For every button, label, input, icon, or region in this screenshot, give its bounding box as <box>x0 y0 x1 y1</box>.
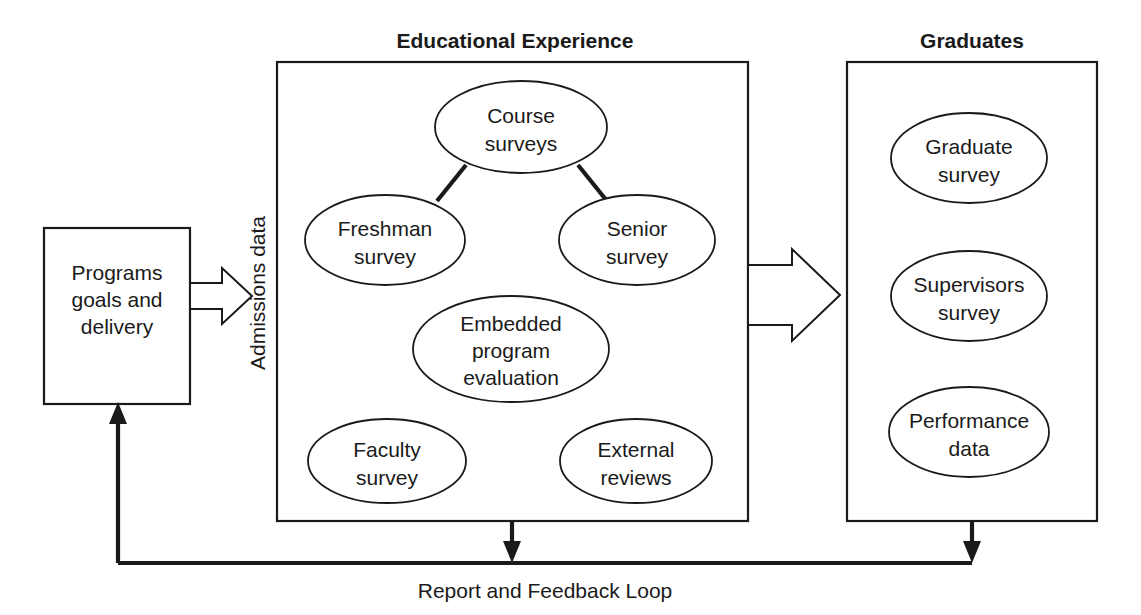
node-graduate-survey: Graduate survey <box>891 113 1047 203</box>
embedded-program-evaluation-line2: program <box>472 339 550 362</box>
embedded-program-evaluation-line3: evaluation <box>463 366 559 389</box>
external-reviews-ellipse <box>560 419 712 503</box>
node-faculty-survey: Faculty survey <box>308 419 466 503</box>
assessment-process-diagram: Educational Experience Graduates Program… <box>0 0 1141 615</box>
node-performance-data: Performance data <box>889 387 1049 477</box>
freshman-survey-line2: survey <box>354 245 416 268</box>
senior-survey-ellipse <box>559 195 715 285</box>
educational-experience-title: Educational Experience <box>397 29 634 52</box>
node-external-reviews: External reviews <box>560 419 712 503</box>
external-reviews-line2: reviews <box>600 466 671 489</box>
graduates-title: Graduates <box>920 29 1024 52</box>
admissions-flow-arrow <box>190 268 252 324</box>
supervisors-survey-line2: survey <box>938 301 1000 324</box>
report-feedback-loop-label: Report and Feedback Loop <box>418 579 673 602</box>
programs-goals-line2: goals and <box>71 288 162 311</box>
graduates-drop-arrowhead <box>963 541 981 563</box>
faculty-survey-line2: survey <box>356 466 418 489</box>
senior-survey-line2: survey <box>606 245 668 268</box>
node-senior-survey: Senior survey <box>559 195 715 285</box>
embedded-program-evaluation-line1: Embedded <box>460 312 562 335</box>
supervisors-survey-ellipse <box>891 251 1047 341</box>
programs-goals-line1: Programs <box>71 261 162 284</box>
supervisors-survey-line1: Supervisors <box>914 273 1025 296</box>
graduates-flow-arrow <box>748 249 840 341</box>
external-reviews-line1: External <box>597 438 674 461</box>
performance-data-ellipse <box>889 387 1049 477</box>
performance-data-line2: data <box>949 437 990 460</box>
faculty-survey-line1: Faculty <box>353 438 421 461</box>
graduate-survey-line1: Graduate <box>925 135 1013 158</box>
programs-goals-line3: delivery <box>81 315 154 338</box>
course-surveys-line2: surveys <box>485 132 557 155</box>
course-surveys-line1: Course <box>487 104 555 127</box>
faculty-survey-ellipse <box>308 419 466 503</box>
graduate-survey-ellipse <box>891 113 1047 203</box>
feedback-arrowhead-up <box>109 402 127 424</box>
senior-survey-line1: Senior <box>607 217 668 240</box>
node-embedded-program-evaluation: Embedded program evaluation <box>413 296 609 402</box>
graduate-survey-line2: survey <box>938 163 1000 186</box>
performance-data-line1: Performance <box>909 409 1029 432</box>
freshman-survey-ellipse <box>305 195 465 285</box>
freshman-survey-line1: Freshman <box>338 217 433 240</box>
node-course-surveys: Course surveys <box>435 81 607 173</box>
node-supervisors-survey: Supervisors survey <box>891 251 1047 341</box>
course-surveys-ellipse <box>435 81 607 173</box>
educational-drop-arrowhead <box>503 541 521 563</box>
node-freshman-survey: Freshman survey <box>305 195 465 285</box>
admissions-data-label: Admissions data <box>246 216 269 370</box>
